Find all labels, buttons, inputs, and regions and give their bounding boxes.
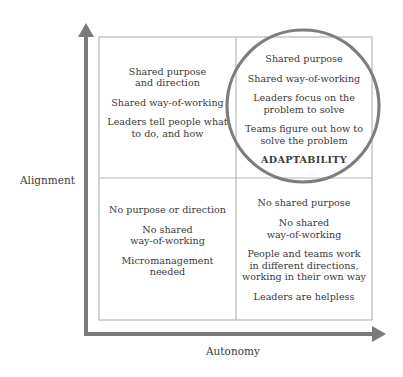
y-axis-arrow-icon	[78, 23, 94, 335]
quadrant-text: No purpose or direction	[109, 204, 226, 216]
quadrant-text: Shared way-of-working	[248, 73, 361, 85]
quadrant-text: Teams figure out how to solve the proble…	[245, 123, 363, 146]
quadrant-bottom-right: No shared purpose No shared way-of-worki…	[236, 178, 372, 320]
quadrant-bottom-left: No purpose or direction No shared way-of…	[99, 178, 236, 320]
quadrant-text: Leaders focus on the problem to solve	[253, 92, 355, 115]
quadrant-text: No shared way-of-working	[267, 217, 342, 240]
quadrant-text: No shared purpose	[258, 197, 351, 209]
adaptability-label: ADAPTABILITY	[261, 154, 347, 166]
quadrant-text: Leaders are helpless	[254, 291, 355, 303]
alignment-autonomy-matrix: Shared purpose and direction Shared way-…	[0, 0, 403, 377]
quadrant-text: Leaders tell people what to do, and how	[107, 116, 227, 139]
quadrant-text: Shared purpose and direction	[129, 66, 206, 89]
quadrant-text: No shared way-of-working	[130, 224, 205, 247]
x-axis-label: Autonomy	[206, 345, 260, 357]
quadrant-text: Shared way-of-working	[111, 97, 224, 109]
y-axis-label: Alignment	[20, 174, 75, 186]
quadrant-text: Shared purpose	[265, 53, 342, 65]
quadrant-top-left: Shared purpose and direction Shared way-…	[99, 37, 236, 178]
x-axis-arrow-icon	[84, 326, 386, 342]
quadrant-top-right: Shared purpose Shared way-of-working Lea…	[236, 37, 372, 178]
quadrant-text: Micromanagement needed	[122, 255, 214, 278]
quadrant-text: People and teams work in different direc…	[242, 248, 366, 283]
